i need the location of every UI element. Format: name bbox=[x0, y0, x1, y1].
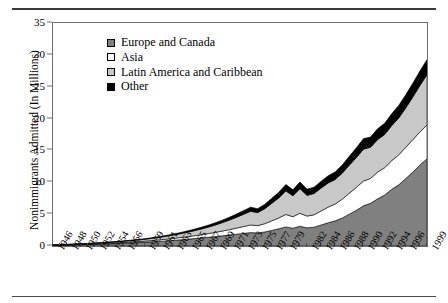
y-axis: Nonimmigrants Admitted (In Millions) 051… bbox=[0, 0, 52, 260]
legend-item-label: Other bbox=[121, 80, 148, 93]
y-tick-label: 25 bbox=[34, 80, 45, 91]
legend-swatch-icon bbox=[107, 68, 115, 76]
legend-item-label: Latin America and Caribbean bbox=[121, 66, 263, 79]
y-tick-label: 15 bbox=[34, 144, 45, 155]
legend-swatch-icon bbox=[107, 39, 115, 47]
y-tick-label: 20 bbox=[34, 112, 45, 123]
top-divider bbox=[12, 8, 436, 10]
legend-swatch-icon bbox=[107, 83, 115, 91]
y-tick-label: 5 bbox=[40, 208, 46, 219]
y-tick-label: 35 bbox=[34, 17, 45, 28]
legend-swatch-icon bbox=[107, 53, 115, 61]
x-axis: 1946194819501952195419561959196119631965… bbox=[52, 247, 428, 303]
legend-item: Asia bbox=[107, 51, 263, 64]
legend-item: Other bbox=[107, 80, 263, 93]
x-tick-mark bbox=[306, 243, 307, 247]
y-tick-label: 0 bbox=[40, 240, 46, 251]
x-tick-mark bbox=[426, 243, 427, 247]
legend-item: Europe and Canada bbox=[107, 36, 263, 49]
y-tick-label: 30 bbox=[34, 48, 45, 59]
legend-item-label: Europe and Canada bbox=[121, 36, 215, 49]
legend-item-label: Asia bbox=[121, 51, 143, 64]
x-tick-mark bbox=[144, 243, 145, 247]
x-tick-label: 1999 bbox=[430, 230, 448, 252]
x-tick-mark bbox=[52, 243, 53, 247]
y-tick-label: 10 bbox=[34, 176, 45, 187]
legend-item: Latin America and Caribbean bbox=[107, 66, 263, 79]
chart-legend: Europe and CanadaAsiaLatin America and C… bbox=[107, 36, 263, 95]
